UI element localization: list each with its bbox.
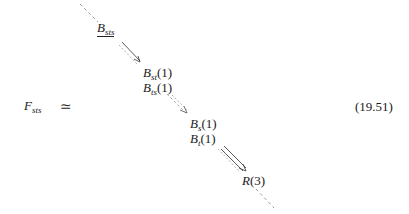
dashed-diagonal-top: [80, 4, 98, 22]
node-b-sts: Bsts: [97, 21, 114, 35]
dashed-diagonal-bottom: [256, 189, 274, 208]
node-letter: B: [143, 65, 151, 80]
node-r3: R(3): [242, 174, 265, 188]
node-arg: (1): [201, 116, 216, 131]
node-b-s: Bs(1): [190, 117, 217, 131]
lhs-letter: F: [24, 98, 32, 113]
node-arg: (1): [200, 131, 215, 146]
node-letter: B: [190, 131, 198, 146]
arrow-1-icon: [119, 42, 140, 64]
node-arg: (1): [157, 80, 172, 95]
node-letter: B: [190, 116, 198, 131]
node-subscript: sts: [105, 27, 115, 37]
node-b-t: Bt(1): [190, 132, 216, 146]
node-letter: B: [97, 20, 105, 35]
node-letter: B: [143, 80, 151, 95]
equation-number: (19.51): [355, 99, 393, 115]
node-letter: R: [242, 173, 250, 188]
arrow-3-icon: [218, 146, 246, 172]
node-arg: (1): [157, 65, 172, 80]
arrow-2-icon: [167, 94, 187, 113]
lhs-subscript: sts: [32, 105, 42, 115]
node-b-sts-label: Bsts: [97, 20, 114, 37]
node-b-ts: Bts(1): [143, 81, 172, 95]
node-arg: (3): [250, 173, 265, 188]
lhs-symbol: Fsts: [24, 99, 41, 113]
node-b-st: Bst(1): [143, 66, 172, 80]
relation-symbol: ≃: [60, 98, 72, 115]
